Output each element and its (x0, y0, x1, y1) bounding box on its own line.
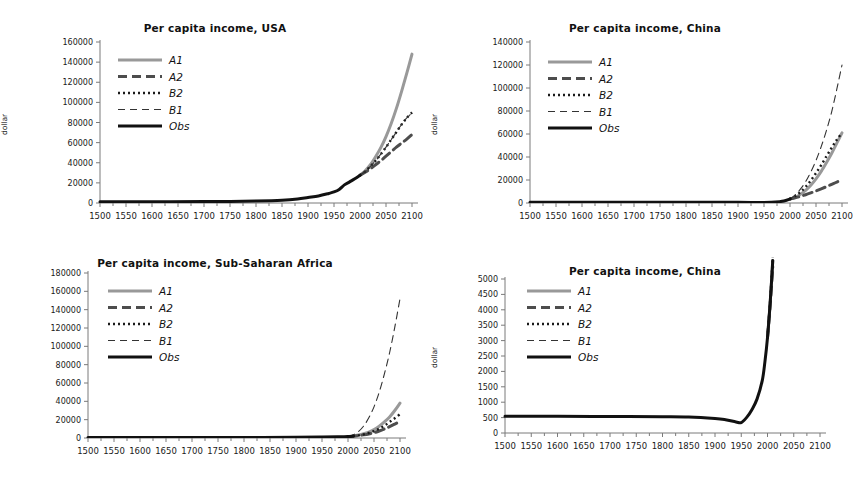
svg-text:2050: 2050 (363, 446, 385, 456)
svg-text:1650: 1650 (155, 446, 177, 456)
svg-text:1900: 1900 (297, 211, 319, 221)
svg-text:500: 500 (483, 414, 498, 423)
svg-text:1950: 1950 (730, 441, 752, 451)
legend-label-a1: A1 (168, 54, 183, 66)
svg-text:5000: 5000 (478, 275, 498, 284)
svg-text:1850: 1850 (259, 446, 281, 456)
svg-text:20000: 20000 (68, 179, 93, 188)
svg-text:1650: 1650 (597, 211, 619, 221)
svg-text:1500: 1500 (519, 211, 541, 221)
svg-text:1650: 1650 (167, 211, 189, 221)
svg-text:1500: 1500 (494, 441, 516, 451)
svg-text:0: 0 (88, 199, 93, 208)
chart-panel-usa: Per capita income, USA dollar 0200004000… (0, 0, 430, 243)
svg-text:0: 0 (493, 429, 498, 438)
svg-text:160000: 160000 (62, 38, 93, 47)
svg-text:1900: 1900 (285, 446, 307, 456)
svg-text:1750: 1750 (219, 211, 241, 221)
svg-text:1500: 1500 (77, 446, 99, 456)
svg-text:60000: 60000 (498, 130, 523, 139)
svg-text:2100: 2100 (809, 441, 831, 451)
svg-text:100000: 100000 (62, 98, 93, 107)
svg-text:1950: 1950 (753, 211, 775, 221)
svg-text:1800: 1800 (652, 441, 674, 451)
svg-text:3000: 3000 (478, 337, 498, 346)
svg-text:120000: 120000 (50, 324, 81, 333)
svg-text:0: 0 (76, 434, 81, 443)
legend-label-b2: B2 (599, 89, 613, 101)
legend-label-b1: B1 (599, 106, 613, 118)
svg-text:40000: 40000 (498, 153, 523, 162)
svg-text:4500: 4500 (478, 290, 498, 299)
legend-label-obs: Obs (169, 120, 190, 132)
svg-text:80000: 80000 (68, 119, 93, 128)
svg-text:2100: 2100 (389, 446, 411, 456)
svg-text:2050: 2050 (375, 211, 397, 221)
svg-text:2000: 2000 (337, 446, 359, 456)
legend-label-b1: B1 (578, 335, 592, 347)
svg-text:1750: 1750 (207, 446, 229, 456)
figure-grid: Per capita income, USA dollar 0200004000… (0, 0, 860, 486)
svg-text:80000: 80000 (498, 107, 523, 116)
svg-text:1900: 1900 (704, 441, 726, 451)
svg-text:40000: 40000 (68, 159, 93, 168)
svg-text:1850: 1850 (701, 211, 723, 221)
legend-label-b2: B2 (169, 87, 183, 99)
svg-text:2000: 2000 (779, 211, 801, 221)
svg-text:1800: 1800 (675, 211, 697, 221)
svg-text:20000: 20000 (498, 176, 523, 185)
legend-label-a2: A2 (158, 302, 173, 314)
svg-text:2500: 2500 (478, 352, 498, 361)
svg-text:3500: 3500 (478, 321, 498, 330)
svg-text:4000: 4000 (478, 306, 498, 315)
svg-text:60000: 60000 (68, 139, 93, 148)
svg-text:1550: 1550 (545, 211, 567, 221)
svg-text:1750: 1750 (649, 211, 671, 221)
svg-text:1900: 1900 (727, 211, 749, 221)
svg-text:1700: 1700 (181, 446, 203, 456)
svg-text:1700: 1700 (193, 211, 215, 221)
legend-label-b1: B1 (169, 104, 183, 116)
svg-text:60000: 60000 (56, 379, 81, 388)
legend-label-a2: A2 (168, 71, 183, 83)
legend-label-obs: Obs (578, 351, 599, 363)
svg-text:2050: 2050 (783, 441, 805, 451)
chart-plot-ssa: 0200004000060000800001000001200001400001… (0, 243, 430, 486)
svg-text:40000: 40000 (56, 397, 81, 406)
chart-plot-china-top: 0200004000060000800001000001200001400001… (430, 0, 860, 243)
svg-text:1600: 1600 (141, 211, 163, 221)
chart-panel-china-top: Per capita income, China dollar 02000040… (430, 0, 860, 243)
svg-text:1500: 1500 (478, 383, 498, 392)
svg-text:2000: 2000 (349, 211, 371, 221)
svg-text:180000: 180000 (50, 269, 81, 278)
legend-label-a2: A2 (577, 302, 592, 314)
chart-plot-china-bottom: 0500100015002000250030003500400045005000… (430, 243, 860, 486)
svg-text:120000: 120000 (62, 78, 93, 87)
svg-text:2050: 2050 (805, 211, 827, 221)
svg-text:1850: 1850 (678, 441, 700, 451)
svg-text:1550: 1550 (103, 446, 125, 456)
svg-text:20000: 20000 (56, 416, 81, 425)
legend-label-a1: A1 (158, 285, 173, 297)
svg-text:1550: 1550 (520, 441, 542, 451)
svg-text:140000: 140000 (50, 306, 81, 315)
svg-text:1950: 1950 (323, 211, 345, 221)
legend-label-b2: B2 (159, 318, 173, 330)
svg-text:140000: 140000 (492, 38, 523, 47)
svg-text:1000: 1000 (478, 398, 498, 407)
svg-text:1650: 1650 (573, 441, 595, 451)
svg-text:1750: 1750 (625, 441, 647, 451)
svg-text:1950: 1950 (311, 446, 333, 456)
svg-text:100000: 100000 (492, 84, 523, 93)
chart-panel-china-bottom: Per capita income, China dollar 05001000… (430, 243, 860, 486)
legend-label-obs: Obs (599, 122, 620, 134)
legend-label-obs: Obs (159, 351, 180, 363)
svg-text:120000: 120000 (492, 61, 523, 70)
chart-panel-ssa: Per capita income, Sub-Saharan Africa do… (0, 243, 430, 486)
legend-label-a1: A1 (598, 56, 613, 68)
svg-text:1600: 1600 (571, 211, 593, 221)
svg-text:1600: 1600 (547, 441, 569, 451)
svg-text:2100: 2100 (831, 211, 853, 221)
svg-text:1550: 1550 (115, 211, 137, 221)
chart-plot-usa: 0200004000060000800001000001200001400001… (0, 0, 430, 243)
